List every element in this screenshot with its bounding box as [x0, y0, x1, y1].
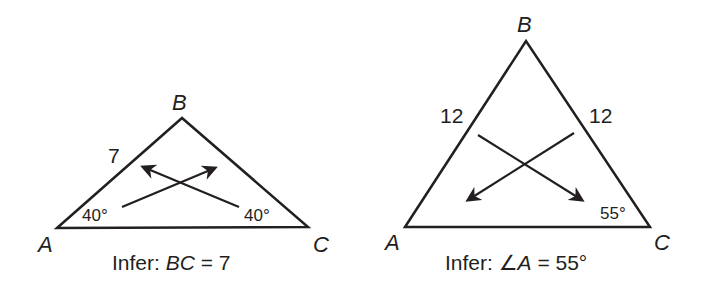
left-side-ab-length: 7	[108, 144, 120, 167]
left-arrow-a-to-bc	[122, 168, 215, 207]
right-side-ab-length: 12	[440, 104, 463, 127]
right-caption: Infer: ∠A = 55°	[445, 251, 587, 274]
right-vertex-a-label: A	[383, 230, 400, 255]
left-caption-prefix: Infer:	[112, 251, 166, 274]
left-angle-c-measure: 40°	[244, 206, 270, 225]
left-caption: Infer: BC = 7	[112, 251, 231, 274]
right-caption-prefix: Infer:	[445, 251, 499, 274]
right-arrow-bc-to-a	[468, 133, 574, 200]
left-caption-result: = 7	[195, 251, 231, 274]
right-caption-subject: A	[516, 251, 532, 274]
left-arrow-c-to-ab	[143, 167, 239, 207]
left-vertex-b-label: B	[172, 90, 187, 115]
right-figure: A B C 12 12 55° Infer: ∠A = 55°	[383, 12, 670, 274]
left-vertex-c-label: C	[313, 232, 329, 257]
left-angle-a-measure: 40°	[82, 206, 108, 225]
right-caption-result: = 55°	[532, 251, 588, 274]
left-vertex-a-label: A	[36, 232, 53, 257]
left-caption-subject: BC	[166, 251, 196, 274]
left-figure: A B C 7 40° 40° Infer: BC = 7	[36, 90, 329, 274]
right-triangle-shape	[405, 41, 650, 227]
right-angle-c-measure: 55°	[600, 204, 626, 223]
right-vertex-c-label: C	[654, 230, 670, 255]
isosceles-triangle-diagram: A B C 7 40° 40° Infer: BC = 7 A B C 12 1…	[0, 0, 705, 290]
right-side-bc-length: 12	[589, 104, 612, 127]
right-vertex-b-label: B	[517, 12, 532, 37]
angle-symbol: ∠	[499, 251, 518, 274]
right-arrow-ab-to-c	[478, 135, 582, 200]
